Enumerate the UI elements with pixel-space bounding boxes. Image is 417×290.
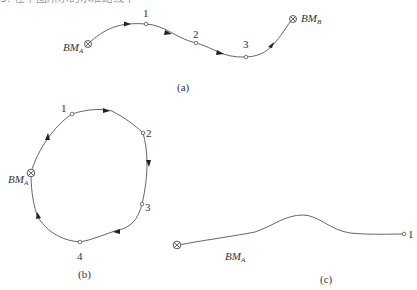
turning-point-3-marker (244, 55, 248, 59)
point-2-label: 2 (146, 127, 152, 139)
caption-b: (b) (78, 268, 91, 281)
benchmark-a-symbol-icon (85, 41, 92, 48)
turning-point-2-marker (194, 41, 198, 45)
turning-point-4-marker (78, 240, 82, 244)
point-3-label: 3 (243, 38, 249, 50)
benchmark-b-label: BMB (301, 12, 322, 26)
benchmark-a-label: BMA (225, 250, 246, 264)
turning-point-1-marker (144, 22, 148, 26)
diagram-a: BMA BMB 1 2 3 (a) (63, 7, 322, 94)
route-line-a (88, 19, 292, 57)
benchmark-a-label: BMA (63, 41, 84, 55)
point-2-label: 2 (193, 28, 199, 40)
caption-a: (a) (177, 81, 190, 94)
point-1-label: 1 (61, 102, 67, 114)
route-line-c (178, 215, 403, 245)
benchmark-a-symbol-icon (173, 241, 181, 249)
diagram-b: BMA 1 2 3 4 (b) (8, 102, 152, 281)
benchmark-a-label: BMA (8, 173, 29, 187)
turning-point-1-marker (70, 112, 74, 116)
benchmark-a-symbol-icon (27, 169, 35, 177)
point-1-label: 1 (408, 228, 414, 240)
point-3-label: 3 (145, 201, 151, 213)
point-4-label: 4 (77, 250, 83, 262)
diagram-c: BMA 1 (c) (173, 215, 413, 286)
caption-c: (c) (320, 273, 333, 286)
turning-point-3-marker (140, 202, 144, 206)
benchmark-b-symbol-icon (290, 16, 297, 23)
direction-arrow-icon (124, 22, 131, 27)
direction-arrow-icon (216, 50, 224, 55)
leveling-routes-figure: BMA BMB 1 2 3 (a) BMA (0, 0, 417, 290)
turning-point-1-marker (402, 232, 406, 236)
route-loop-b (31, 109, 147, 242)
turning-point-2-marker (141, 131, 145, 135)
point-1-label: 1 (143, 7, 149, 19)
